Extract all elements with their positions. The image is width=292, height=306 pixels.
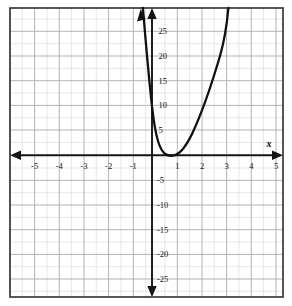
y-tick-label: -15 [157, 225, 168, 235]
y-tick-label: 10 [159, 100, 168, 110]
x-tick-label: -2 [105, 161, 112, 171]
y-tick-label: 20 [159, 51, 168, 61]
y-tick-label: -10 [157, 200, 168, 210]
x-tick-label: 3 [224, 161, 228, 171]
x-tick-label: -3 [80, 161, 87, 171]
y-tick-label: 25 [159, 26, 168, 36]
y-tick-label: 5 [159, 125, 163, 135]
y-tick-label: -25 [157, 274, 168, 284]
x-tick-label: 1 [175, 161, 179, 171]
graph-svg: -5 -4 -3 -2 -1 1 2 3 4 5 25 20 15 10 5 -… [0, 0, 292, 306]
x-tick-label: 4 [249, 161, 254, 171]
x-tick-label: 2 [200, 161, 204, 171]
x-tick-label: -5 [31, 161, 38, 171]
x-tick-label: -1 [130, 161, 137, 171]
y-tick-label: -20 [157, 249, 168, 259]
y-tick-label: 15 [159, 76, 168, 86]
y-tick-label: -5 [157, 175, 164, 185]
x-tick-label: -4 [56, 161, 64, 171]
x-axis-label: x [266, 138, 272, 149]
coordinate-plane-figure: -5 -4 -3 -2 -1 1 2 3 4 5 25 20 15 10 5 -… [0, 0, 292, 306]
x-tick-label: 5 [274, 161, 278, 171]
